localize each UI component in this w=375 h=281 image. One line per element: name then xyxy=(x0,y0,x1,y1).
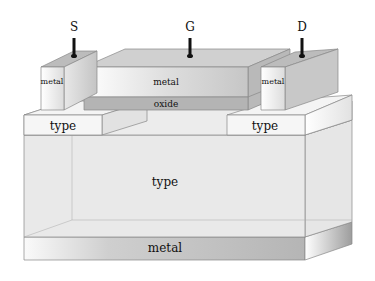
source-metal-label: metal xyxy=(41,77,64,86)
substrate-type-label: type xyxy=(152,175,178,189)
gate-oxide-label: oxide xyxy=(154,99,178,109)
source-type-label: type xyxy=(50,119,76,133)
gate-stack: metal oxide xyxy=(84,49,290,110)
drain-terminal-label: D xyxy=(297,20,307,34)
drain-type-label: type xyxy=(252,119,278,133)
gate-terminal-label: G xyxy=(185,20,195,34)
bottom-metal-label: metal xyxy=(148,241,182,255)
source-terminal-label: S xyxy=(70,20,78,34)
gate-metal-label: metal xyxy=(153,77,179,87)
mosfet-diagram: metal type type type met xyxy=(0,0,375,281)
drain-metal-label: metal xyxy=(262,77,285,86)
